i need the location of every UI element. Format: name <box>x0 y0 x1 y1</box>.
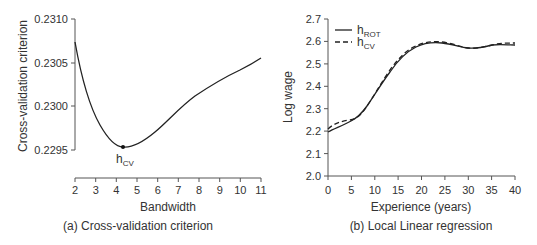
panel-a-cv-curve <box>75 42 261 147</box>
panel-b-y-tick-label: 2.5 <box>306 58 321 70</box>
panel-b-x-tick-label: 20 <box>415 184 427 196</box>
panel-a-y-tick-label: 0.2295 <box>34 144 68 156</box>
panel-b-caption: (b) Local Linear regression <box>350 219 493 233</box>
panel-a-y-tick-label: 0.2310 <box>34 13 68 25</box>
panel-b-y-tick-label: 2.0 <box>306 170 321 182</box>
panel-a-cross-validation: 0.2310 0.2305 0.2300 0.2295 Cross-valida… <box>16 13 267 233</box>
panel-b-x-axis-label: Experience (years) <box>371 200 472 214</box>
panel-b-hcv-curve <box>328 42 515 129</box>
panel-a-x-tick-label: 3 <box>93 184 99 196</box>
panel-b-y-tick-label: 2.1 <box>306 148 321 160</box>
panel-a-x-tick-label: 2 <box>72 184 78 196</box>
panel-a-x-tick-label: 4 <box>113 184 119 196</box>
panel-b-y-ticks: 2.7 2.6 2.5 2.4 2.3 2.2 2.1 2.0 <box>306 13 328 182</box>
panel-b-legend: hROT hCV <box>335 23 381 51</box>
panel-a-x-ticks: 2 3 4 5 6 7 8 9 10 11 <box>72 178 267 196</box>
panel-b-y-tick-label: 2.7 <box>306 13 321 25</box>
panel-b-y-tick-label: 2.4 <box>306 80 321 92</box>
panel-a-x-tick-label: 9 <box>217 184 223 196</box>
figure: 0.2310 0.2305 0.2300 0.2295 Cross-valida… <box>0 0 537 245</box>
panel-a-x-tick-label: 11 <box>255 184 266 196</box>
panel-a-x-axis-label: Bandwidth <box>140 200 196 214</box>
panel-b-x-tick-label: 25 <box>439 184 451 196</box>
panel-b-y-tick-label: 2.3 <box>306 103 321 115</box>
panel-a-y-tick-label: 0.2300 <box>34 100 68 112</box>
panel-a-y-axis-label: Cross-validation criterion <box>16 20 30 152</box>
panel-b-x-tick-label: 40 <box>509 184 521 196</box>
panel-b-x-ticks: 0 5 10 15 20 25 30 35 40 <box>325 176 521 196</box>
panel-a-x-tick-label: 6 <box>155 184 161 196</box>
panel-b-x-tick-label: 0 <box>325 184 331 196</box>
panel-b-x-tick-label: 10 <box>369 184 381 196</box>
panel-b-y-tick-label: 2.2 <box>306 125 321 137</box>
panel-a-x-tick-label: 7 <box>175 184 181 196</box>
panel-a-hcv-annotation: hCV <box>116 152 134 168</box>
panel-b-x-tick-label: 35 <box>485 184 497 196</box>
panel-a-y-tick-label: 0.2305 <box>34 57 68 69</box>
panel-a-minimum-marker <box>121 145 125 149</box>
panel-b-y-tick-label: 2.6 <box>306 35 321 47</box>
panel-b-y-axis-label: Log wage <box>281 71 295 123</box>
panel-a-x-tick-label: 5 <box>134 184 140 196</box>
panel-b-hrot-curve <box>328 43 515 132</box>
panel-a-x-tick-label: 10 <box>234 184 246 196</box>
panel-b-local-linear: 2.7 2.6 2.5 2.4 2.3 2.2 2.1 2.0 Log wage… <box>281 13 521 233</box>
panel-b-x-tick-label: 5 <box>348 184 354 196</box>
panel-a-caption: (a) Cross-validation criterion <box>63 219 213 233</box>
panel-b-x-tick-label: 30 <box>462 184 474 196</box>
panel-a-x-tick-label: 8 <box>196 184 202 196</box>
panel-a-y-ticks: 0.2310 0.2305 0.2300 0.2295 <box>34 13 75 156</box>
panel-b-x-tick-label: 15 <box>392 184 404 196</box>
